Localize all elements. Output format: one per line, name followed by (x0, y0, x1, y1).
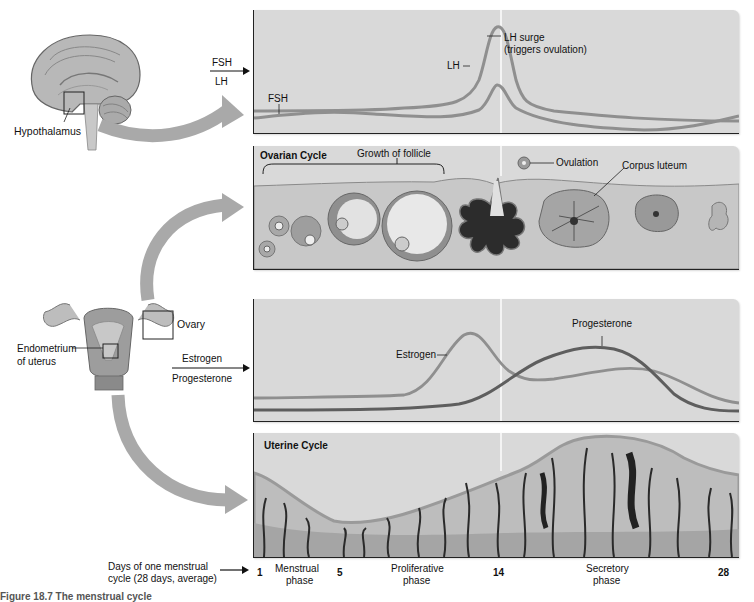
corpus-luteum-label: Corpus luteum (622, 160, 687, 172)
day-tick-5: 5 (337, 567, 343, 579)
ovarian-hormone-panel: Estrogen Progesterone (253, 299, 739, 422)
pituitary-chart (254, 10, 739, 133)
estrogen-curve-label: Estrogen (396, 349, 436, 361)
ovarian-hormone-chart (254, 299, 739, 421)
day-tick-1: 1 (257, 567, 263, 579)
hypothalamus-label: Hypothalamus (14, 125, 81, 137)
uterine-cycle-title: Uterine Cycle (264, 440, 328, 452)
phase-proliferative-line1: Proliferative (391, 563, 444, 575)
endometrium-label-line2: of uterus (17, 356, 56, 368)
phase-menstrual-line2: phase (286, 575, 313, 587)
fsh-input-label: FSH (212, 57, 232, 69)
pituitary-hormone-panel: FSH LH LH surge (triggers ovulation) (253, 10, 739, 134)
estrogen-curve (254, 333, 739, 403)
uterine-cycle-panel: Uterine Cycle (253, 433, 739, 558)
ovarian-cycle-title: Ovarian Cycle (260, 150, 327, 162)
ovarian-cycle-panel: Ovarian Cycle Growth of follicle Ovulati… (253, 146, 739, 270)
progesterone-input-label: Progesterone (172, 373, 232, 385)
figure-caption: Figure 18.7 The menstrual cycle (0, 591, 152, 602)
arrow-uterus-to-uterine (118, 395, 228, 500)
lh-curve (254, 27, 739, 121)
phase-menstrual-line1: Menstrual (275, 563, 319, 575)
ovary-label: Ovary (177, 318, 205, 330)
lh-curve-label: LH (447, 60, 460, 72)
phase-secretory-line1: Secretory (586, 563, 629, 575)
lh-surge-label-line1: LH surge (504, 32, 545, 44)
phase-secretory-line2: phase (593, 575, 620, 587)
estrogen-input-label: Estrogen (182, 353, 222, 365)
arrow-ovary-to-ovarian (147, 205, 225, 300)
days-label-line2: cycle (28 days, average) (108, 573, 217, 585)
day-tick-28: 28 (718, 567, 729, 579)
endometrium-label-line1: Endometrium (17, 343, 76, 355)
progesterone-curve-label: Progesterone (572, 318, 632, 330)
phase-proliferative-line2: phase (403, 575, 430, 587)
lh-input-label: LH (215, 76, 228, 88)
days-arrow-icon (220, 565, 250, 575)
ovulation-label: Ovulation (556, 157, 598, 169)
growth-of-follicle-label: Growth of follicle (357, 148, 431, 160)
days-label-line1: Days of one menstrual (108, 561, 208, 573)
fsh-curve-label: FSH (268, 93, 288, 105)
lh-surge-label-line2: (triggers ovulation) (504, 44, 587, 56)
day-tick-14: 14 (493, 567, 504, 579)
fsh-curve (254, 85, 739, 130)
